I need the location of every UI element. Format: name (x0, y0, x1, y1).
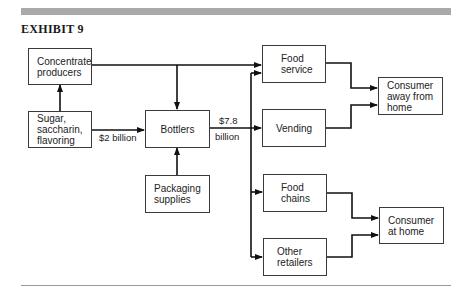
node-bottlers: Bottlers (145, 110, 210, 148)
edge-label-2-billion: $2 billion (99, 133, 137, 143)
arrow-vending-to-consumer-away (325, 105, 377, 128)
node-food-service: Food service (262, 45, 326, 83)
arrow-other-retailers-to-consumer-home (326, 235, 378, 257)
bottom-rule (21, 285, 451, 286)
edge-label-billion: billion (215, 132, 239, 142)
node-vending: Vending (262, 109, 326, 147)
arrow-food-service-to-consumer-away (325, 63, 377, 88)
node-consumer-away-from-home: Consumer away from home (378, 77, 443, 115)
edge-label-7-8: $7.8 (219, 116, 238, 126)
node-packaging-supplies: Packaging supplies (145, 175, 210, 213)
node-concentrate-producers: Concentrate producers (28, 48, 92, 85)
node-food-chains: Food chains (263, 174, 327, 212)
arrow-food-chains-to-consumer-home (326, 193, 378, 218)
node-other-retailers: Other retailers (263, 238, 327, 276)
node-sugar-saccharin-flavoring: Sugar, saccharin, flavoring (28, 111, 92, 148)
connector-lines (0, 0, 468, 297)
node-consumer-at-home: Consumer at home (379, 207, 444, 244)
